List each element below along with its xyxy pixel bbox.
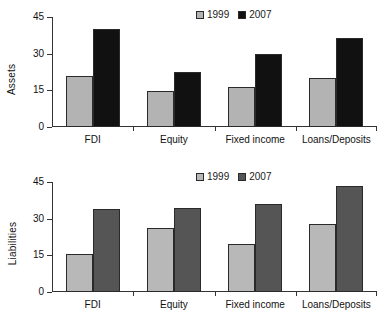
chart-panel-liabilities: 1999 2007 Liabilities 0153045FDIEquityFi… (0, 164, 387, 329)
legend-label-1999: 1999 (207, 172, 229, 182)
x-tick-liabilities (376, 292, 377, 296)
legend-swatch-2007 (238, 173, 246, 181)
bar-assets-loans-deposits-2007 (336, 38, 363, 127)
plot-area-liabilities: 0153045FDIEquityFixed incomeLoans/Deposi… (52, 182, 377, 292)
x-tick-assets (376, 127, 377, 131)
legend-item-2007: 2007 (238, 172, 271, 182)
x-tick-liabilities (215, 292, 216, 296)
x-tick-liabilities (133, 292, 134, 296)
y-tick-label-assets: 45 (22, 12, 44, 22)
x-axis-label-loans-deposits: Loans/Deposits (296, 134, 377, 145)
y-tick-liabilities (47, 255, 52, 256)
y-tick-assets (47, 17, 52, 18)
x-tick-liabilities (296, 292, 297, 296)
bar-assets-fdi-2007 (93, 29, 120, 127)
x-axis-label-fixed-income: Fixed income (215, 299, 296, 310)
bar-liabilities-fdi-1999 (66, 254, 93, 292)
bar-assets-fixed-income-2007 (255, 54, 282, 127)
legend-swatch-1999 (196, 173, 204, 181)
bar-liabilities-loans-deposits-1999 (309, 224, 336, 292)
y-tick-label-assets: 0 (22, 122, 44, 132)
x-axis-label-fdi: FDI (52, 299, 133, 310)
bar-assets-fixed-income-1999 (228, 87, 255, 127)
bar-assets-equity-2007 (174, 72, 201, 127)
y-tick-liabilities (47, 219, 52, 220)
chart-panel-assets: 1999 2007 Assets 0153045FDIEquityFixed i… (0, 0, 387, 165)
bar-liabilities-loans-deposits-2007 (336, 186, 363, 292)
bar-liabilities-equity-1999 (147, 228, 174, 292)
bar-liabilities-fdi-2007 (93, 209, 120, 292)
bar-assets-equity-1999 (147, 91, 174, 127)
y-tick-liabilities (47, 182, 52, 183)
legend-liabilities: 1999 2007 (196, 172, 272, 182)
y-tick-assets (47, 127, 52, 128)
y-axis-line-assets (52, 17, 53, 127)
y-tick-label-liabilities: 15 (22, 250, 44, 260)
figure-root: 1999 2007 Assets 0153045FDIEquityFixed i… (0, 0, 387, 329)
bar-liabilities-fixed-income-1999 (228, 244, 255, 292)
y-axis-line-liabilities (52, 182, 53, 292)
y-tick-label-liabilities: 45 (22, 177, 44, 187)
x-axis-label-fdi: FDI (52, 134, 133, 145)
y-axis-title-liabilities: Liabilities (7, 216, 18, 272)
x-axis-label-fixed-income: Fixed income (215, 134, 296, 145)
x-axis-label-loans-deposits: Loans/Deposits (296, 299, 377, 310)
legend-item-1999: 1999 (196, 172, 229, 182)
y-tick-label-assets: 30 (22, 49, 44, 59)
bar-assets-fdi-1999 (66, 76, 93, 127)
x-axis-label-equity: Equity (133, 299, 214, 310)
y-tick-assets (47, 90, 52, 91)
bar-liabilities-equity-2007 (174, 208, 201, 292)
x-tick-assets (215, 127, 216, 131)
bar-assets-loans-deposits-1999 (309, 78, 336, 127)
x-tick-assets (133, 127, 134, 131)
y-tick-label-liabilities: 30 (22, 214, 44, 224)
y-tick-label-assets: 15 (22, 85, 44, 95)
y-tick-liabilities (47, 292, 52, 293)
bar-liabilities-fixed-income-2007 (255, 204, 282, 292)
plot-area-assets: 0153045FDIEquityFixed incomeLoans/Deposi… (52, 17, 377, 127)
y-tick-assets (47, 54, 52, 55)
x-tick-assets (296, 127, 297, 131)
x-axis-label-equity: Equity (133, 134, 214, 145)
y-axis-title-assets: Assets (6, 60, 17, 100)
legend-label-2007: 2007 (249, 172, 271, 182)
y-tick-label-liabilities: 0 (22, 287, 44, 297)
